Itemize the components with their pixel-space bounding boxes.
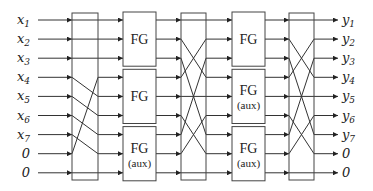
fg-block-label: FG bbox=[240, 141, 258, 156]
output-labels: y1y2y3y4y5y6y700 bbox=[341, 12, 355, 180]
output-label: 0 bbox=[342, 146, 350, 161]
output-label: y2 bbox=[341, 31, 355, 48]
input-label: x5 bbox=[17, 88, 30, 105]
input-label: x4 bbox=[17, 69, 30, 86]
output-label: y7 bbox=[341, 127, 355, 144]
input-label: x6 bbox=[17, 108, 30, 125]
input-labels: x1x2x3x4x5x6x700 bbox=[17, 12, 30, 180]
fg-block-label: FG bbox=[131, 141, 149, 156]
fg-block-label: FG bbox=[240, 32, 258, 47]
wire bbox=[72, 77, 98, 153]
output-label: y5 bbox=[341, 88, 355, 105]
input-label: x3 bbox=[17, 50, 30, 67]
input-label: 0 bbox=[22, 146, 30, 161]
wire bbox=[72, 96, 98, 115]
fg-block-label: FG bbox=[131, 89, 149, 104]
fg-network-diagram: x1x2x3x4x5x6x700 y1y2y3y4y5y6y700 FGFGFG… bbox=[0, 0, 373, 191]
output-label: y6 bbox=[341, 108, 355, 125]
wire bbox=[72, 77, 98, 96]
wire bbox=[72, 135, 98, 154]
permutation-box-1 bbox=[72, 13, 98, 180]
input-label: 0 bbox=[22, 165, 30, 180]
output-label: y3 bbox=[341, 50, 355, 67]
fg-block-note: (aux) bbox=[237, 99, 261, 112]
fg-block-label: FG bbox=[240, 83, 258, 98]
fg-block-label: FG bbox=[131, 32, 149, 47]
wires bbox=[38, 20, 338, 173]
output-label: y1 bbox=[341, 12, 355, 29]
fg-block-note: (aux) bbox=[237, 157, 261, 170]
output-label: y4 bbox=[341, 69, 355, 86]
input-label: x2 bbox=[17, 31, 30, 48]
input-label: x1 bbox=[17, 12, 30, 29]
input-label: x7 bbox=[17, 127, 30, 144]
wire bbox=[72, 116, 98, 135]
output-label: 0 bbox=[342, 165, 350, 180]
fg-block-note: (aux) bbox=[128, 157, 152, 170]
